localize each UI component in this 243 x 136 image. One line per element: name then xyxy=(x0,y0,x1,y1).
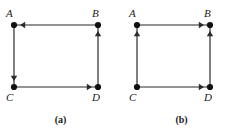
arrowhead-b-C-to-A xyxy=(134,31,140,36)
vertex-label-a-C: C xyxy=(6,92,13,103)
arrowhead-a-D-to-B xyxy=(95,31,101,36)
arrowhead-b-C-to-D xyxy=(199,84,204,90)
vertex-b-A xyxy=(134,22,140,28)
vertex-a-D xyxy=(95,84,101,90)
vertex-label-a-D: D xyxy=(92,92,100,103)
figure-caption-b: (b) xyxy=(121,114,242,125)
vertex-label-b-D: D xyxy=(204,92,212,103)
vertex-label-b-B: B xyxy=(204,8,211,19)
graph-diagram-a xyxy=(0,0,121,112)
vertex-a-B xyxy=(95,22,101,28)
arrowhead-a-B-to-A xyxy=(20,22,25,28)
arrowhead-b-D-to-B xyxy=(207,31,213,36)
vertex-a-C xyxy=(11,84,17,90)
figure-caption-a: (a) xyxy=(0,114,121,125)
directed-graph-figure-pair: A B C D (a) A B C D (b) xyxy=(0,0,243,136)
vertex-label-a-A: A xyxy=(6,8,13,19)
vertex-b-B xyxy=(207,22,213,28)
graph-diagram-b xyxy=(121,0,242,112)
vertex-b-C xyxy=(134,84,140,90)
figure-panel-a: A B C D (a) xyxy=(0,0,121,136)
vertex-b-D xyxy=(207,84,213,90)
figure-panel-b: A B C D (b) xyxy=(121,0,242,136)
arrowhead-b-A-to-B xyxy=(199,22,204,28)
vertex-label-b-A: A xyxy=(129,8,136,19)
vertex-a-A xyxy=(11,22,17,28)
vertex-label-b-C: C xyxy=(129,92,136,103)
arrowhead-a-A-to-C xyxy=(11,76,17,81)
arrowhead-a-C-to-D xyxy=(87,84,92,90)
vertex-label-a-B: B xyxy=(92,8,99,19)
